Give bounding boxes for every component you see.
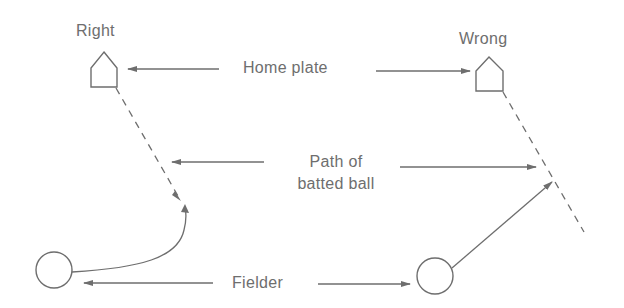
- batted-ball-path-right: [503, 92, 584, 232]
- fielder-icon-left: [36, 252, 72, 288]
- path-label: Path of batted ball: [272, 151, 400, 195]
- home-plate-icon-left: [91, 52, 117, 87]
- home-plate-icon-right: [476, 57, 503, 91]
- fielder-label: Fielder: [232, 274, 283, 292]
- fielder-route-arrowhead: [181, 204, 189, 213]
- path-label-line1: Path of: [272, 151, 400, 173]
- home-plate-label: Home plate: [243, 59, 328, 77]
- right-title: Right: [76, 22, 115, 40]
- fielder-route-straight: [452, 182, 552, 268]
- fielder-route-curved: [72, 208, 186, 272]
- fielder-icon-right: [417, 258, 453, 294]
- wrong-title: Wrong: [459, 30, 507, 48]
- batted-ball-path-left: [116, 88, 178, 196]
- path-label-line2: batted ball: [272, 173, 400, 195]
